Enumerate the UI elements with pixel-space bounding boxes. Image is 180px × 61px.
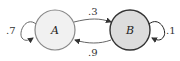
transition-b-b-arrow [149, 22, 165, 40]
state-b: B [110, 10, 150, 50]
transition-a-a-arrow [21, 22, 36, 41]
transition-a-b-label: .3 [88, 6, 98, 17]
transition-b-a-label: .9 [88, 47, 98, 58]
markov-diagram: A B .7 .3 .9 .1 [0, 0, 180, 61]
transition-b-a-arrow [75, 40, 111, 43]
state-a-label: A [50, 24, 59, 37]
transition-a-a-label: .7 [6, 25, 16, 36]
transition-a-b-arrow [74, 19, 111, 22]
transition-b-b-label: .1 [166, 25, 176, 36]
state-b-label: B [125, 24, 134, 37]
state-a: A [35, 10, 75, 50]
